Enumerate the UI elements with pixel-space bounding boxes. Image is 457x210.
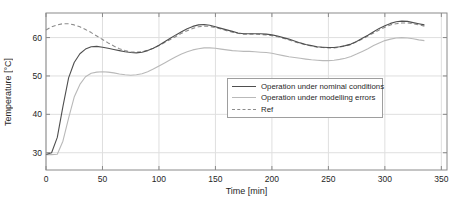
y-tick-label: 50 (33, 71, 43, 81)
x-tick-label: 150 (208, 174, 222, 184)
x-tick-label: 100 (152, 174, 166, 184)
x-tick-label: 200 (265, 174, 279, 184)
legend: Operation under nominal conditions Opera… (227, 78, 383, 118)
y-tick-label: 30 (33, 148, 43, 158)
ref-line-swatch-icon (232, 109, 256, 110)
modelling-errors-line-swatch-icon (232, 97, 256, 98)
y-tick-label: 60 (33, 33, 43, 43)
nominal-line-swatch-icon (232, 86, 256, 87)
legend-label-nominal: Operation under nominal conditions (261, 82, 384, 91)
legend-label-ref: Ref (261, 105, 273, 114)
legend-item-nominal: Operation under nominal conditions (228, 81, 382, 92)
x-tick-label: 250 (321, 174, 335, 184)
legend-item-ref: Ref (228, 104, 382, 115)
temperature-line-chart: 05010015020025030035030405060 Time [min]… (0, 0, 457, 210)
legend-item-modelling-errors: Operation under modelling errors (228, 92, 382, 103)
x-tick-label: 50 (98, 174, 108, 184)
x-tick-label: 300 (378, 174, 392, 184)
y-tick-label: 40 (33, 109, 43, 119)
y-axis-label: Temperature [°C] (1, 13, 15, 170)
legend-label-modelling-errors: Operation under modelling errors (261, 93, 375, 102)
x-axis-label: Time [min] (46, 186, 447, 196)
x-tick-label: 350 (434, 174, 448, 184)
x-tick-label: 0 (44, 174, 49, 184)
